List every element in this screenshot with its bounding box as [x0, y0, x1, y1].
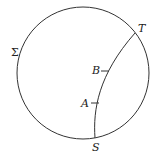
label-b: B [91, 64, 100, 77]
arc-s-to-t [95, 33, 135, 138]
label-t: T [138, 22, 147, 35]
sphere-circle [17, 7, 149, 139]
label-s: S [92, 141, 100, 154]
diagram-canvas: Σ T B A S [0, 0, 159, 155]
label-a: A [80, 97, 89, 110]
label-sigma: Σ [11, 46, 19, 59]
